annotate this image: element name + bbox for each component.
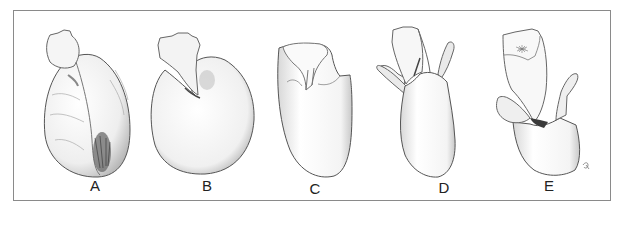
specimen-b-drawing — [151, 33, 254, 174]
specimen-c-drawing — [278, 43, 352, 177]
specimen-e-drawing — [497, 29, 590, 175]
panel-label-a: A — [90, 178, 100, 193]
signature-mark — [583, 163, 589, 169]
panel-label-b: B — [202, 178, 212, 193]
specimen-a-drawing — [44, 30, 130, 177]
panel-label-e: E — [544, 178, 554, 193]
panel-label-d: D — [439, 180, 450, 195]
specimen-d-drawing — [377, 27, 455, 177]
panel-label-c: C — [310, 181, 321, 196]
